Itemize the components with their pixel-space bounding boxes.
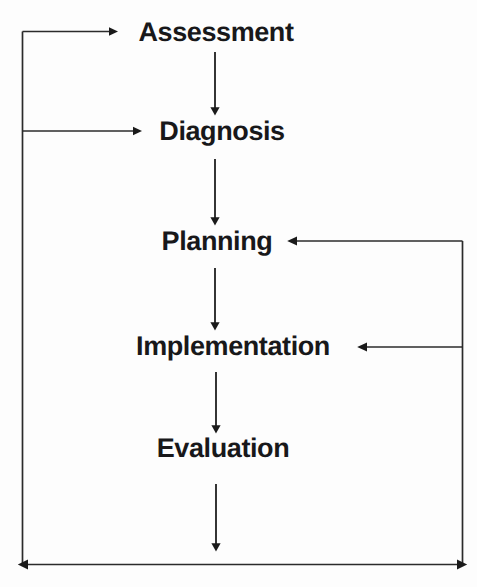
node-diagnosis: Diagnosis — [159, 118, 284, 145]
node-evaluation: Evaluation — [157, 435, 290, 462]
node-assessment: Assessment — [138, 19, 293, 46]
diagram-canvas: Assessment Diagnosis Planning Implementa… — [0, 0, 477, 587]
node-implementation: Implementation — [136, 333, 330, 360]
node-planning: Planning — [162, 228, 273, 255]
flowchart-connectors — [0, 0, 477, 587]
